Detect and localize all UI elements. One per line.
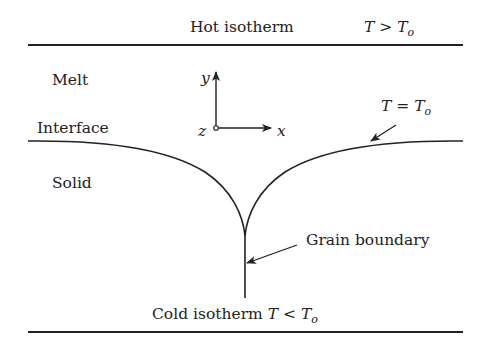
condition-operator: > <box>379 18 392 36</box>
hot-isotherm-label: Hot isotherm <box>190 20 294 36</box>
interface-curve <box>28 141 463 236</box>
interface-pointer-arrow <box>371 125 396 141</box>
grain-boundary-label: Grain boundary <box>306 233 429 249</box>
grain-boundary-pointer-arrow <box>247 245 297 263</box>
y-axis-label: y <box>201 71 210 87</box>
condition-rhs-subscript: o <box>408 26 415 39</box>
condition-rhs-subscript: o <box>311 313 318 326</box>
hot-isotherm-text: Hot isotherm <box>190 18 294 36</box>
condition-operator: = <box>396 97 409 115</box>
diagram-canvas: Hot isotherm T > To Melt Interface Solid… <box>0 0 485 347</box>
condition-rhs: T <box>301 305 311 323</box>
cold-isotherm-text: Cold isotherm <box>152 305 263 323</box>
hot-isotherm-condition: T > To <box>364 20 414 36</box>
condition-lhs: T <box>381 97 391 115</box>
cold-isotherm-label: Cold isotherm T < To <box>152 307 318 323</box>
z-axis-label: z <box>198 124 206 140</box>
interface-condition: T = To <box>381 99 431 115</box>
condition-rhs: T <box>397 18 407 36</box>
condition-operator: < <box>283 305 296 323</box>
x-axis-label: x <box>277 124 286 140</box>
z-axis-origin-icon <box>214 126 219 131</box>
condition-rhs-subscript: o <box>425 105 432 118</box>
condition-rhs: T <box>414 97 424 115</box>
condition-lhs: T <box>364 18 374 36</box>
melt-region-label: Melt <box>52 73 88 89</box>
interface-label: Interface <box>37 121 109 137</box>
condition-lhs: T <box>268 305 278 323</box>
solid-region-label: Solid <box>52 176 92 192</box>
